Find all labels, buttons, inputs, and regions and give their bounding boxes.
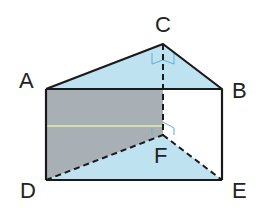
vertex-label-b: B — [232, 80, 247, 102]
prism-diagram: C A B F D E — [0, 0, 270, 214]
vertex-label-e: E — [232, 180, 247, 202]
vertex-label-c: C — [155, 14, 171, 36]
top-face-abc — [46, 44, 222, 89]
prism-figure — [0, 0, 270, 214]
vertex-label-f: F — [154, 145, 167, 167]
vertex-label-a: A — [19, 70, 34, 92]
vertex-label-d: D — [20, 180, 36, 202]
